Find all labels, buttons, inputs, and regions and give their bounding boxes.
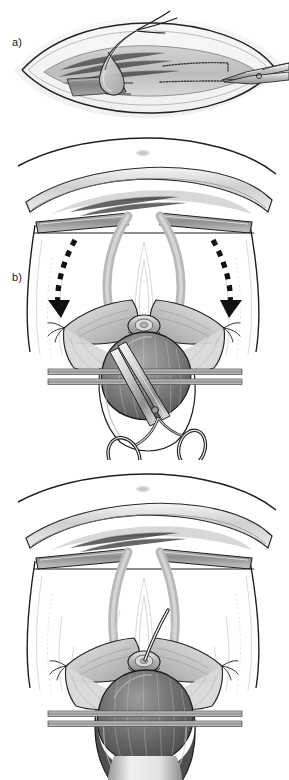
scissors-ring-right — [175, 427, 210, 460]
exposed-organ-mass — [97, 670, 193, 764]
scissors-ring-left — [102, 433, 146, 460]
stay-suture-right — [222, 661, 238, 680]
panel-a-illustration — [0, 0, 289, 130]
stay-suture-left — [48, 323, 64, 342]
direction-arrow-right — [213, 240, 242, 318]
stay-suture-left — [50, 661, 66, 680]
panel-a: a) — [0, 0, 289, 130]
upper-flap-band — [26, 503, 272, 552]
retractor-blade-left — [36, 213, 128, 233]
panel-b: b) — [0, 130, 289, 460]
upper-flap-band — [26, 167, 272, 216]
umbilicus-marker — [136, 486, 150, 492]
panel-b-label: b) — [12, 271, 22, 283]
surgical-figure: a) — [0, 0, 289, 780]
midline-anatomy-faint — [135, 242, 152, 318]
umbilicus-marker — [136, 150, 150, 156]
stay-suture-right — [224, 323, 240, 342]
retractor-blade-right — [160, 213, 252, 233]
panel-c: c) — [0, 460, 289, 780]
panel-c-illustration — [0, 460, 289, 780]
panel-b-illustration — [0, 130, 289, 460]
panel-a-label: a) — [12, 36, 22, 48]
lower-draped-field — [108, 756, 182, 780]
retractor-blade-left — [36, 549, 128, 569]
retractor-blade-right — [160, 549, 252, 569]
direction-arrow-left — [48, 240, 75, 318]
